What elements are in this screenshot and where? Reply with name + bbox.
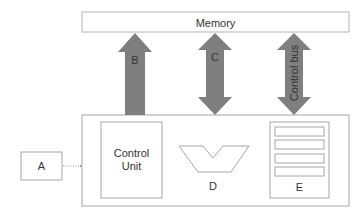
registers-block: E <box>270 122 329 198</box>
control-bus-label: Control bus <box>288 44 300 101</box>
arrow-b-label: B <box>131 54 138 66</box>
alu-label: D <box>209 180 217 192</box>
control-unit: Control Unit <box>101 122 162 198</box>
cpu-architecture-diagram: Memory B C Control bus Control Unit D E <box>0 0 364 216</box>
arrow-c: C <box>198 33 232 115</box>
control-unit-label-line2: Unit <box>122 160 142 172</box>
registers-label: E <box>296 181 303 193</box>
arrow-b: B <box>118 33 152 115</box>
memory-block: Memory <box>82 12 349 32</box>
memory-label: Memory <box>196 17 236 29</box>
control-unit-label-line1: Control <box>114 147 149 159</box>
register-slot <box>275 140 324 149</box>
register-slot <box>275 127 324 136</box>
register-slot <box>275 154 324 163</box>
arrow-control-bus: Control bus <box>277 33 311 115</box>
input-label: A <box>38 160 46 172</box>
arrow-c-label: C <box>211 51 219 63</box>
input-block: A <box>21 152 62 180</box>
register-slot <box>275 167 324 176</box>
